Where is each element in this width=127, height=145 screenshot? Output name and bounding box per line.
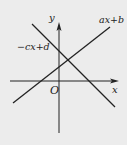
- origin-label: O: [50, 85, 59, 96]
- y-axis-label: y: [49, 13, 55, 23]
- line-label-ax-plus-b: ax+b: [99, 15, 124, 25]
- line-neg-cx-plus-d: [32, 24, 115, 107]
- x-axis-label: x: [112, 85, 118, 95]
- line-ax-plus-b: [13, 27, 110, 103]
- line-label-neg-cx-plus-d: −cx+d: [17, 42, 50, 52]
- diagram-canvas: y x O ax+b −cx+d: [0, 0, 127, 145]
